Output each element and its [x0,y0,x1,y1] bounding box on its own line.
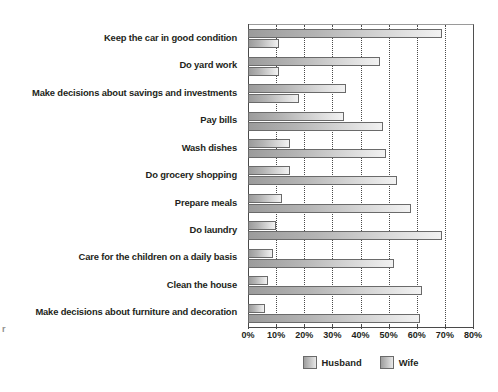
legend-label: Wife [399,357,419,368]
bar-row [248,52,473,79]
bar-wife [248,67,279,76]
bar-row [248,272,473,299]
bar-row [248,107,473,134]
legend-label: Husband [322,357,362,368]
bar-husband [248,57,380,66]
bar-row [248,217,473,244]
bar-husband [248,166,290,175]
x-tick-label: 70% [436,330,454,340]
bar-rows [248,25,473,327]
bar-wife [248,231,442,240]
category-label: Wash dishes [0,134,243,161]
x-tick-mark [332,325,333,329]
bar-wife [248,149,386,158]
category-label: Pay bills [0,106,243,133]
plot-area [248,24,474,327]
x-tick-label: 40% [351,330,369,340]
bar-row [248,25,473,52]
bar-row [248,80,473,107]
category-label: Prepare meals [0,189,243,216]
x-tick-mark [389,325,390,329]
legend-item-wife[interactable]: Wife [380,356,419,369]
x-axis-tick-labels: 0%10%20%30%40%50%60%70%80% [248,330,473,344]
bar-wife [248,39,279,48]
x-tick-label: 60% [408,330,426,340]
bar-wife [248,259,394,268]
x-tick-mark [445,325,446,329]
bar-husband [248,84,346,93]
bar-wife [248,176,397,185]
bar-husband [248,249,273,258]
x-tick-mark [361,325,362,329]
bar-husband [248,194,282,203]
legend-swatch-wife [380,356,394,369]
x-tick-mark [304,325,305,329]
bar-row [248,300,473,327]
x-tick-mark [276,325,277,329]
bar-wife [248,122,383,131]
x-tick-mark [248,325,249,329]
x-tick-label: 50% [380,330,398,340]
x-tick-mark [473,325,474,329]
x-tick-label: 0% [241,330,254,340]
bar-row [248,190,473,217]
bar-husband [248,276,268,285]
category-label: Make decisions about savings and investm… [0,79,243,106]
category-label: Make decisions about furniture and decor… [0,299,243,326]
bar-husband [248,29,442,38]
bar-row [248,135,473,162]
chart-legend: HusbandWife [248,356,473,369]
bar-wife [248,286,422,295]
bar-row [248,245,473,272]
x-tick-label: 80% [464,330,482,340]
bar-husband [248,112,344,121]
bar-wife [248,94,299,103]
category-label: Clean the house [0,271,243,298]
x-tick-label: 20% [295,330,313,340]
x-tick-label: 10% [267,330,285,340]
plot-inner [248,25,473,327]
bar-wife [248,314,420,323]
bar-wife [248,204,411,213]
category-label: Do yard work [0,51,243,78]
bar-husband [248,139,290,148]
category-label: Do laundry [0,216,243,243]
category-label: Keep the car in good condition [0,24,243,51]
bar-husband [248,304,265,313]
category-labels-column: Keep the car in good conditionDo yard wo… [0,24,243,326]
category-label: Care for the children on a daily basis [0,244,243,271]
legend-swatch-husband [303,356,317,369]
x-tick-mark [417,325,418,329]
x-tick-label: 30% [323,330,341,340]
category-label: Do grocery shopping [0,161,243,188]
bar-husband [248,221,276,230]
bar-chart: r Keep the car in good conditionDo yard … [0,0,498,392]
legend-item-husband[interactable]: Husband [303,356,362,369]
bar-row [248,162,473,189]
